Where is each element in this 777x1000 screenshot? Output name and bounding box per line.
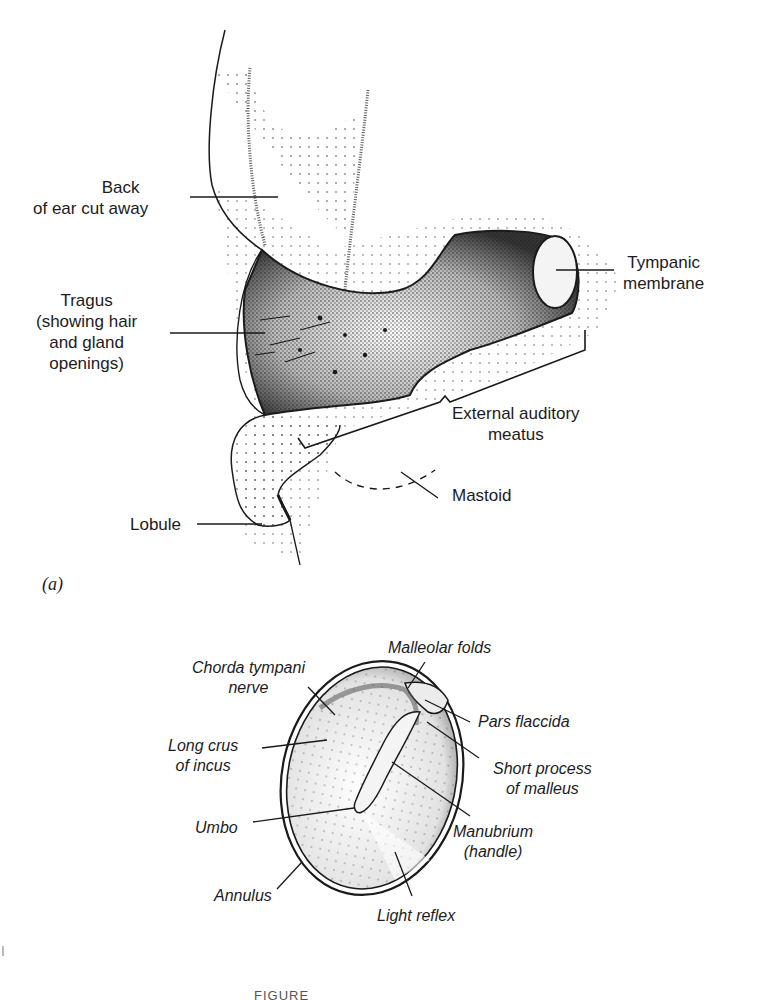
leader-annulus	[277, 862, 302, 889]
label-mastoid: Mastoid	[452, 485, 512, 506]
label-umbo: Umbo	[195, 818, 238, 838]
label-line: openings)	[36, 353, 137, 374]
label-line: Back	[93, 177, 148, 198]
label-tragus: Tragus (showing hair and gland openings)	[36, 290, 137, 374]
label-short-process: Short process of malleus	[493, 759, 592, 799]
label-line: Long crus	[168, 736, 238, 756]
label-back-of-ear: Back of ear cut away	[93, 177, 148, 219]
label-line: External auditory	[452, 403, 580, 424]
leader-mastoid	[401, 472, 438, 498]
label-chorda-tympani: Chorda tympani nerve	[192, 658, 305, 698]
label-line: (handle)	[453, 842, 533, 862]
label-line: and gland	[36, 332, 137, 353]
ear-anatomy-figure: Back of ear cut away Tragus (showing hai…	[0, 0, 777, 1000]
label-tympanic-membrane: Tympanic membrane	[623, 252, 704, 294]
label-line: nerve	[192, 678, 305, 698]
label-line: Tympanic	[623, 252, 704, 273]
label-line: Chorda tympani	[192, 658, 305, 678]
panel-a-drawing	[170, 30, 620, 565]
label-light-reflex: Light reflex	[377, 906, 455, 926]
label-lobule: Lobule	[130, 514, 181, 535]
label-line: of ear cut away	[33, 198, 148, 219]
label-line: (showing hair	[36, 311, 137, 332]
label-external-auditory-meatus: External auditory meatus	[452, 403, 580, 445]
label-long-crus: Long crus of incus	[168, 736, 238, 776]
label-line: of incus	[168, 756, 238, 776]
label-line: meatus	[452, 424, 580, 445]
label-malleolar-folds: Malleolar folds	[388, 638, 491, 658]
label-annulus: Annulus	[214, 886, 272, 906]
label-pars-flaccida: Pars flaccida	[478, 712, 570, 732]
label-line: Manubrium	[453, 822, 533, 842]
label-manubrium: Manubrium (handle)	[453, 822, 533, 862]
label-line: Tragus	[36, 290, 137, 311]
ear-illustration	[0, 0, 777, 1000]
label-line: Short process	[493, 759, 592, 779]
panel-a-tag: (a)	[42, 574, 63, 595]
label-line: membrane	[623, 273, 704, 294]
figure-caption: FIGURE	[254, 988, 309, 1000]
label-line: of malleus	[493, 779, 592, 799]
